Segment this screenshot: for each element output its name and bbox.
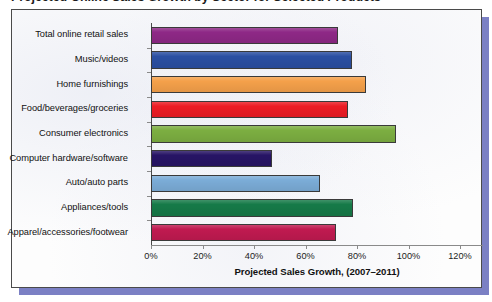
category-label: Music/videos: [0, 54, 128, 64]
x-axis-tick-label: 100%: [397, 251, 421, 261]
category-label: Computer hardware/software: [0, 153, 128, 163]
chart-frame: Total online retail salesMusic/videosHom…: [11, 9, 482, 288]
bar-home-furnishings: [151, 76, 366, 94]
x-axis-tick: [357, 245, 358, 249]
y-axis-tick: [147, 48, 151, 49]
y-axis-tick: [147, 122, 151, 123]
x-axis-tick: [460, 245, 461, 249]
x-axis-tick: [254, 245, 255, 249]
bar-computer-hardware-software: [151, 150, 272, 168]
x-axis-tick-label: 20%: [193, 251, 211, 261]
y-axis-tick: [147, 171, 151, 172]
x-axis-tick-label: 120%: [448, 251, 472, 261]
y-axis-tick: [147, 196, 151, 197]
bar-food-beverages-groceries: [151, 101, 348, 119]
category-label: Home furnishings: [0, 79, 128, 89]
bar-appliances-tools: [151, 199, 353, 217]
x-axis-tick: [203, 245, 204, 249]
y-axis-tick: [147, 97, 151, 98]
x-axis-tick-label: 80%: [348, 251, 366, 261]
y-axis-tick: [147, 220, 151, 221]
category-label: Food/beverages/groceries: [0, 103, 128, 113]
category-label: Consumer electronics: [0, 128, 128, 138]
bar-consumer-electronics: [151, 125, 396, 143]
x-axis-tick-label: 60%: [296, 251, 314, 261]
bar-chart-plot: Total online retail salesMusic/videosHom…: [12, 10, 481, 287]
category-label: Apparel/accessories/footwear: [0, 227, 128, 237]
category-label: Total online retail sales: [0, 29, 128, 39]
y-axis-tick: [147, 146, 151, 147]
y-axis-tick: [147, 72, 151, 73]
page-title: Projected Online Sales Growth by Sector …: [11, 0, 481, 4]
category-label: Auto/auto parts: [0, 177, 128, 187]
category-label: Appliances/tools: [0, 202, 128, 212]
x-axis-tick: [151, 245, 152, 249]
bar-music-videos: [151, 51, 352, 69]
x-axis-title: Projected Sales Growth, (2007–2011): [151, 266, 483, 277]
bar-auto-auto-parts: [151, 175, 320, 193]
bar-apparel-accessories-footwear: [151, 224, 336, 242]
x-axis-tick: [306, 245, 307, 249]
category-axis-line: [151, 245, 483, 246]
x-axis-tick: [409, 245, 410, 249]
x-axis-tick-label: 0%: [144, 251, 157, 261]
x-axis-tick-label: 40%: [245, 251, 263, 261]
bar-total-online-retail-sales: [151, 27, 338, 45]
